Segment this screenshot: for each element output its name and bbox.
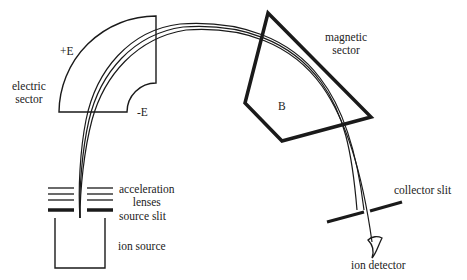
b-field-label: B xyxy=(278,100,286,113)
ion-detector-label: ion detector xyxy=(351,259,406,272)
electric-sector-label-line1: electric xyxy=(12,80,46,93)
plus-e-label: +E xyxy=(60,45,74,58)
acceleration-lenses-label-line2: lenses xyxy=(119,196,175,209)
magnetic-sector-label-line1: magnetic xyxy=(325,31,367,44)
magnetic-sector-label: magnetic sector xyxy=(325,31,367,57)
electric-sector-label: electric sector xyxy=(12,80,46,106)
electric-sector-shape xyxy=(59,16,156,112)
collector-slit-label: collector slit xyxy=(394,184,451,197)
ion-source-label: ion source xyxy=(118,240,166,253)
magnetic-sector-label-line2: sector xyxy=(325,44,367,57)
acceleration-lenses-label-line1: acceleration xyxy=(119,183,175,196)
mass-spectrometer-diagram: electric sector +E -E magnetic sector B … xyxy=(0,0,467,280)
electric-sector-label-line2: sector xyxy=(12,93,46,106)
ion-source-shape xyxy=(55,218,105,268)
collector-slit-shape xyxy=(327,202,402,222)
acceleration-lenses-label: acceleration lenses xyxy=(119,183,175,209)
source-slit-label: source slit xyxy=(119,210,166,223)
diagram-drawing xyxy=(0,0,467,280)
ion-detector-icon xyxy=(368,237,382,258)
minus-e-label: -E xyxy=(137,106,148,119)
